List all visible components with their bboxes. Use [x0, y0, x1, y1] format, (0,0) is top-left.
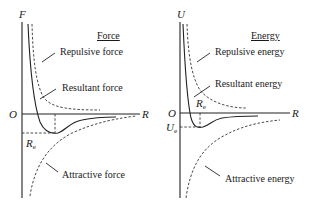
force-attractive-leader — [46, 163, 58, 172]
energy-x-axis-label: R — [291, 107, 299, 119]
energy-ue-label: Ue — [166, 121, 177, 135]
force-y-axis-label: F — [18, 8, 26, 20]
energy-re-label: Re — [195, 97, 206, 111]
energy-resultant-label: Resultant energy — [215, 78, 282, 89]
energy-attractive-leader — [205, 166, 220, 176]
force-title: Force — [97, 30, 120, 41]
force-re-label: Re — [25, 137, 36, 151]
energy-repulsive-label: Repulsive energy — [215, 46, 285, 57]
energy-y-axis-label: U — [177, 8, 186, 20]
energy-title: Energy — [251, 30, 280, 41]
energy-origin-label: O — [168, 107, 176, 119]
energy-repulsive-leader — [197, 53, 210, 62]
force-origin-label: O — [9, 108, 17, 120]
force-repulsive-label: Repulsive force — [60, 46, 124, 57]
force-resultant-label: Resultant force — [62, 82, 123, 93]
energy-attractive-label: Attractive energy — [225, 173, 295, 184]
force-attractive-label: Attractive force — [62, 169, 126, 180]
energy-panel: U R O Energy Re Ue Repulsive energy Resu… — [166, 8, 299, 198]
force-panel: F R O Force Re Repulsive force Resultant… — [9, 8, 149, 198]
energy-resultant-leader — [194, 86, 210, 97]
force-x-axis-label: R — [141, 108, 149, 120]
energy-resultant-curve — [183, 24, 258, 127]
force-resultant-leader — [40, 89, 56, 99]
force-attractive-curve — [30, 116, 136, 196]
force-repulsive-leader — [42, 53, 55, 62]
energy-attractive-curve — [186, 120, 280, 198]
interatomic-diagram: F R O Force Re Repulsive force Resultant… — [0, 0, 310, 207]
